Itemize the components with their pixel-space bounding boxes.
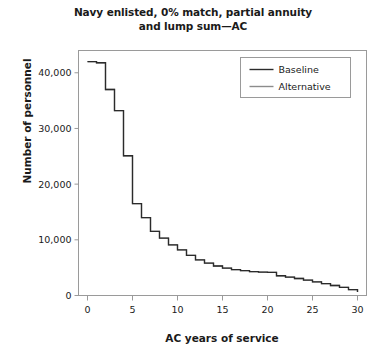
y-tick-label: 10,000 <box>38 234 71 245</box>
x-tick-label: 15 <box>216 304 228 315</box>
x-tick-label: 5 <box>129 304 135 315</box>
legend-label-baseline: Baseline <box>279 64 319 75</box>
x-tick-label: 20 <box>261 304 273 315</box>
y-tick-label: 20,000 <box>38 179 71 190</box>
x-tick-label: 30 <box>351 304 363 315</box>
chart-figure: Navy enlisted, 0% match, partial annuity… <box>0 0 386 361</box>
plot-area: 010,00020,00030,00040,000051015202530Bas… <box>0 0 386 361</box>
x-tick-label: 0 <box>84 304 90 315</box>
y-tick-label: 40,000 <box>38 67 71 78</box>
y-tick-label: 30,000 <box>38 123 71 134</box>
legend-label-alternative: Alternative <box>279 81 331 92</box>
y-tick-label: 0 <box>65 290 71 301</box>
x-tick-label: 10 <box>171 304 183 315</box>
x-tick-label: 25 <box>306 304 318 315</box>
